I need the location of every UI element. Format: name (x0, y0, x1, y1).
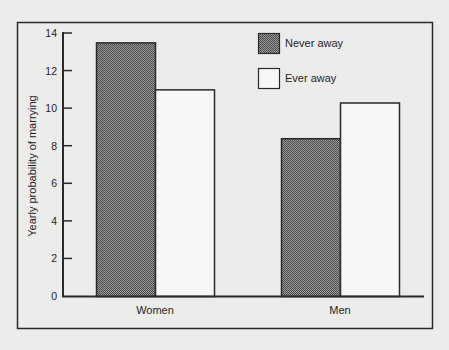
legend-swatch-never-away (259, 34, 280, 54)
y-axis-label: Yearly probability of marrying (26, 95, 38, 236)
y-tick-label: 4 (51, 215, 57, 227)
legend: Never away Ever away (259, 34, 344, 89)
y-tick-label: 14 (45, 27, 57, 39)
bar-men-ever-away (341, 103, 400, 296)
y-tick-label: 0 (51, 290, 57, 302)
x-tick-label: Women (136, 304, 174, 316)
y-tick-label: 6 (51, 177, 57, 189)
x-axis-labels: WomenMen (136, 304, 351, 316)
y-tick-label: 10 (45, 102, 57, 114)
bar-women-ever-away (156, 90, 215, 297)
bar-men-never-away (282, 139, 341, 297)
legend-item-ever-away: Ever away (259, 69, 337, 89)
legend-swatch-ever-away (259, 69, 280, 89)
bar-women-never-away (97, 43, 156, 297)
chart-canvas: Yearly probability of marrying 024681012… (0, 0, 449, 350)
bars (97, 43, 400, 297)
y-axis-ticks: 02468101214 (45, 27, 72, 302)
legend-label-never-away: Never away (285, 37, 344, 49)
legend-item-never-away: Never away (259, 34, 344, 54)
bar-chart: Yearly probability of marrying 024681012… (0, 0, 449, 350)
y-tick-label: 12 (45, 65, 57, 77)
y-tick-label: 8 (51, 140, 57, 152)
y-tick-label: 2 (51, 252, 57, 264)
legend-label-ever-away: Ever away (285, 72, 337, 84)
x-tick-label: Men (329, 304, 350, 316)
